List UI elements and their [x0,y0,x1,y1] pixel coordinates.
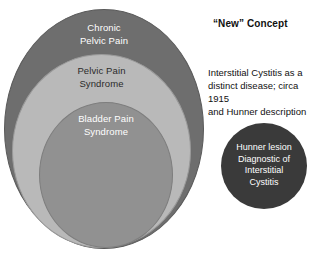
diagram-canvas: Chronic Pelvic Pain Pelvic Pain Syndrome… [0,0,321,259]
ellipse-label-chronic-pelvic-pain: Chronic Pelvic Pain [5,22,203,47]
ellipse-label-pelvic-pain-syndrome: Pelvic Pain Syndrome [13,65,190,90]
circle-label-hunner-lesion: Hunner lesion Diagnostic of Interstitial… [221,142,307,188]
ellipse-label-bladder-pain-syndrome: Bladder Pain Syndrome [40,113,172,138]
new-concept-paragraph: Interstitial Cystitis as a distinct dise… [208,66,320,118]
circle-hunner-lesion: Hunner lesion Diagnostic of Interstitial… [221,123,307,209]
ellipse-bladder-pain-syndrome: Bladder Pain Syndrome [39,102,173,248]
new-concept-heading: “New” Concept [213,18,288,29]
